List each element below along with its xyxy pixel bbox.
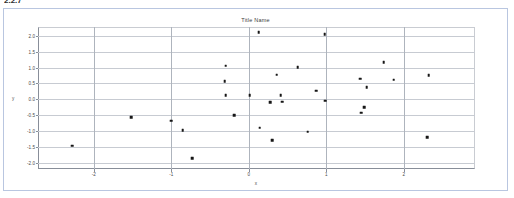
scatter-point: [271, 139, 274, 142]
scatter-point: [71, 144, 74, 147]
y-tick-label: -2.0: [27, 160, 35, 165]
y-tick-mark: [36, 83, 38, 84]
gridline-vertical: [249, 27, 250, 169]
scatter-point: [248, 94, 251, 97]
y-tick-label: 0.5: [29, 81, 35, 86]
scatter-point: [315, 89, 318, 92]
y-tick-label: -1.0: [27, 128, 35, 133]
scatter-point: [258, 126, 261, 129]
gridline-horizontal: [38, 131, 475, 132]
x-tick-label: -1: [169, 172, 173, 177]
screenshot-root: 2.2.7 Title Name -2.0-1.5-1.0-0.50.00.51…: [0, 0, 514, 198]
scatter-point: [233, 114, 236, 117]
gridline-horizontal: [38, 115, 475, 116]
gridline-vertical: [326, 27, 327, 169]
scatter-point: [223, 80, 226, 83]
gridline-vertical: [404, 27, 405, 169]
scatter-point: [170, 120, 173, 123]
y-tick-label: -0.5: [27, 113, 35, 118]
scatter-point: [224, 64, 227, 67]
y-tick-mark: [36, 52, 38, 53]
scatter-point: [360, 111, 363, 114]
scatter-point: [359, 77, 362, 80]
x-tick-label: 0: [247, 172, 250, 177]
y-tick-label: 1.0: [29, 65, 35, 70]
y-axis-label: y: [12, 96, 14, 101]
scatter-point: [427, 74, 430, 77]
scatter-point: [392, 78, 395, 81]
scatter-point: [258, 31, 261, 34]
scatter-point: [279, 94, 282, 97]
gridline-horizontal: [38, 83, 475, 84]
scatter-point: [269, 101, 272, 104]
gridline-horizontal: [38, 163, 475, 164]
plot-axes: -2.0-1.5-1.0-0.50.00.51.01.52.0 -2-1012 …: [38, 27, 475, 169]
scatter-point: [363, 106, 366, 109]
scatter-point: [323, 33, 326, 36]
gridline-vertical: [171, 27, 172, 169]
scatter-point: [281, 101, 284, 104]
plot-surface: Title Name -2.0-1.5-1.0-0.50.00.51.01.52…: [4, 9, 507, 190]
y-tick-mark: [36, 131, 38, 132]
y-tick-label: 2.0: [29, 33, 35, 38]
chart-title: Title Name: [4, 17, 507, 23]
y-tick-label: -1.5: [27, 144, 35, 149]
x-axis-label: x: [255, 181, 257, 186]
gridline-vertical: [94, 27, 95, 169]
gridline-horizontal: [38, 68, 475, 69]
x-tick-label: 2: [402, 172, 405, 177]
gridline-horizontal: [38, 52, 475, 53]
scatter-point: [365, 86, 368, 89]
figure-card: Title Name -2.0-1.5-1.0-0.50.00.51.01.52…: [3, 8, 508, 191]
scatter-point: [324, 99, 327, 102]
y-tick-mark: [36, 68, 38, 69]
y-tick-mark: [36, 115, 38, 116]
y-tick-mark: [36, 36, 38, 37]
scatter-point: [382, 61, 385, 64]
gridline-horizontal: [38, 147, 475, 148]
scatter-point: [130, 116, 133, 119]
y-tick-mark: [36, 147, 38, 148]
gridline-horizontal: [38, 99, 475, 100]
scatter-point: [191, 157, 194, 160]
scatter-point: [182, 129, 185, 132]
scatter-point: [426, 136, 429, 139]
scatter-point: [224, 94, 227, 97]
gridline-horizontal: [38, 36, 475, 37]
scatter-point: [275, 73, 278, 76]
x-tick-label: 1: [325, 172, 328, 177]
x-tick-label: -2: [92, 172, 96, 177]
y-tick-mark: [36, 163, 38, 164]
scatter-point: [296, 66, 299, 69]
scatter-point: [306, 130, 309, 133]
y-tick-label: 0.0: [29, 97, 35, 102]
cropped-top-text: 2.2.7: [4, 0, 22, 3]
y-tick-mark: [36, 99, 38, 100]
y-tick-label: 1.5: [29, 49, 35, 54]
